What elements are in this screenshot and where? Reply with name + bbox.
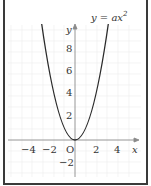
- origin-label: O: [66, 144, 74, 155]
- x-tick-minus-4: −4: [21, 144, 36, 155]
- y-tick-2: 2: [66, 110, 72, 121]
- x-axis-label: x: [132, 144, 138, 155]
- y-tick-minus-2: −2: [59, 157, 74, 168]
- y-tick-6: 6: [66, 65, 72, 76]
- y-tick-4: 4: [66, 87, 72, 98]
- x-tick-2: 2: [93, 144, 99, 155]
- equation-label: y = ax2: [90, 10, 128, 23]
- x-tick-4: 4: [114, 144, 120, 155]
- y-axis-label: y: [65, 24, 72, 35]
- y-tick-8: 8: [66, 43, 72, 54]
- parabola-chart: y = ax2 y 8 6 4 2 −2 −4 −2 O 2 4 x: [0, 0, 151, 186]
- x-tick-minus-2: −2: [42, 144, 57, 155]
